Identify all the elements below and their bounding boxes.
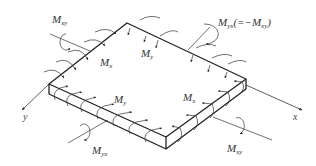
- label-mxy-top: Mxy: [52, 14, 67, 27]
- label-mx-front: Mx: [183, 92, 195, 105]
- label-mxy-bottom: Mxy: [227, 143, 242, 156]
- y-axis: [22, 84, 49, 110]
- label-myx-top: Myx(=−Mxy): [218, 17, 271, 30]
- label-mx-top: Mx: [100, 57, 112, 70]
- plate: [49, 23, 246, 149]
- label-my-top: My: [141, 48, 153, 61]
- label-y-axis: y: [23, 112, 27, 122]
- label-x-axis: x: [293, 112, 297, 122]
- x-axis: [246, 85, 302, 110]
- label-my-front: My: [114, 94, 126, 107]
- label-myx-bottom: Myx: [92, 145, 107, 158]
